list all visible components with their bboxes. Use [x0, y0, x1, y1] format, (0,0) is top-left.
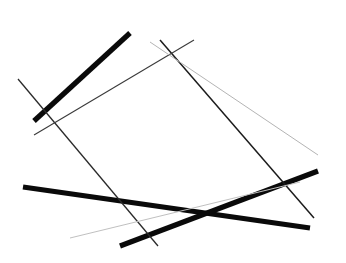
line-segments-svg	[0, 0, 346, 263]
drawing-canvas	[0, 0, 346, 263]
